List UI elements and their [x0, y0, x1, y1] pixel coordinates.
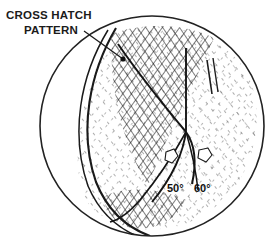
angle-label-right: 60°: [194, 182, 211, 194]
callout-line-1: CROSS HATCH: [6, 9, 92, 21]
callout-line-2: PATTERN: [24, 24, 78, 36]
cross-hatch-figure: CROSS HATCH PATTERN 50° 60°: [0, 0, 269, 252]
callout-leader-dot: [120, 56, 125, 61]
illustration-root: CROSS HATCH PATTERN 50° 60°: [0, 0, 269, 252]
field-of-view: [40, 10, 269, 246]
angle-label-left: 50°: [167, 182, 184, 194]
